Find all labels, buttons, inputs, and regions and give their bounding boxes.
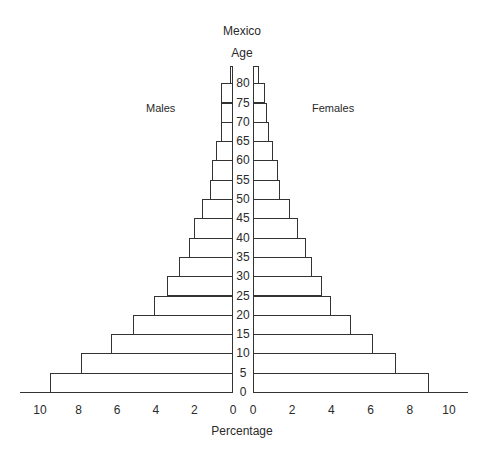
female-bar-75-79 [253,83,265,103]
x-tick-right-0: 0 [243,403,263,417]
age-tick-65: 65 [233,135,253,147]
female-bar-50-54 [253,180,280,200]
x-tick-right-8: 8 [400,403,420,417]
female-bar-35-39 [253,238,306,258]
male-bar-45-49 [202,199,233,219]
age-tick-60: 60 [233,154,253,166]
right-baseline [253,392,468,393]
male-bar-60-64 [216,141,233,161]
x-tick-right-4: 4 [321,403,341,417]
age-tick-75: 75 [233,97,253,109]
age-axis-title: Age [192,46,292,60]
male-bar-10-14 [111,334,233,354]
age-tick-0: 0 [233,386,253,398]
female-bar-0-4 [253,373,429,393]
female-bar-20-24 [253,296,331,316]
females-label: Females [312,102,354,114]
x-tick-left-2: 2 [184,403,204,417]
male-bar-0-4 [50,373,233,393]
age-tick-35: 35 [233,251,253,263]
left-baseline [20,392,233,393]
female-bar-10-14 [253,334,373,354]
age-tick-55: 55 [233,174,253,186]
female-bar-70-74 [253,103,267,123]
male-bar-35-39 [189,238,233,258]
female-bar-65-69 [253,122,269,142]
female-bar-40-44 [253,218,298,238]
chart-title: Mexico [192,24,292,38]
x-tick-right-6: 6 [361,403,381,417]
age-tick-70: 70 [233,116,253,128]
age-tick-45: 45 [233,212,253,224]
x-tick-left-4: 4 [146,403,166,417]
age-tick-25: 25 [233,290,253,302]
x-tick-left-10: 10 [30,403,50,417]
male-bar-15-19 [133,315,233,335]
x-tick-right-10: 10 [439,403,459,417]
males-label: Males [146,102,175,114]
female-bar-30-34 [253,257,312,277]
male-bar-20-24 [154,296,233,316]
x-tick-left-0: 0 [223,403,243,417]
female-bar-60-64 [253,141,273,161]
male-bar-30-34 [179,257,233,277]
male-bar-25-29 [167,276,233,296]
age-tick-50: 50 [233,193,253,205]
male-bar-5-9 [81,353,233,373]
female-bar-25-29 [253,276,322,296]
x-tick-left-8: 8 [69,403,89,417]
age-tick-40: 40 [233,232,253,244]
male-bar-55-59 [212,160,233,180]
age-tick-20: 20 [233,309,253,321]
age-tick-80: 80 [233,77,253,89]
age-tick-5: 5 [233,367,253,379]
x-axis-title: Percentage [192,424,292,438]
female-bar-55-59 [253,160,278,180]
x-tick-left-6: 6 [107,403,127,417]
male-bar-50-54 [210,180,233,200]
female-bar-5-9 [253,353,396,373]
right-center-line [253,75,254,392]
age-tick-10: 10 [233,347,253,359]
male-bar-40-44 [194,218,233,238]
female-bar-15-19 [253,315,351,335]
age-tick-30: 30 [233,270,253,282]
female-bar-45-49 [253,199,290,219]
age-tick-15: 15 [233,328,253,340]
x-tick-right-2: 2 [282,403,302,417]
